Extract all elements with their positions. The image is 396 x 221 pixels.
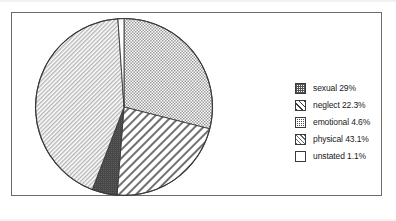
legend-label-unstated: unstated 1.1% <box>313 151 366 162</box>
legend-item-unstated: unstated 1.1% <box>295 148 390 165</box>
legend-item-neglect: neglect 22.3% <box>295 97 390 114</box>
legend-swatch-neglect <box>295 100 306 111</box>
legend-swatch-emotional <box>295 117 306 128</box>
pie-chart <box>33 16 215 198</box>
pie-chart-svg <box>33 16 215 198</box>
legend-label-emotional: emotional 4.6% <box>313 117 370 128</box>
chart-legend: sexual 29% neglect 22.3% emotional 4.6% … <box>295 80 390 165</box>
legend-label-physical: physical 43.1% <box>313 134 369 145</box>
legend-swatch-unstated <box>295 151 306 162</box>
legend-label-sexual: sexual 29% <box>313 83 356 94</box>
legend-label-neglect: neglect 22.3% <box>313 100 366 111</box>
legend-swatch-physical <box>295 134 306 145</box>
legend-item-emotional: emotional 4.6% <box>295 114 390 131</box>
scan-edge-bottom <box>0 219 396 221</box>
figure-frame: sexual 29% neglect 22.3% emotional 4.6% … <box>11 12 382 196</box>
legend-item-physical: physical 43.1% <box>295 131 390 148</box>
pie-slices <box>35 18 212 195</box>
scan-edge-top <box>0 0 396 2</box>
legend-item-sexual: sexual 29% <box>295 80 390 97</box>
legend-swatch-sexual <box>295 83 306 94</box>
